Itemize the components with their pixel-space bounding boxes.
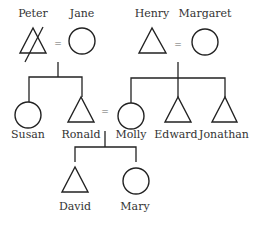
label-ronald: Ronald (61, 128, 100, 141)
label-margaret: Margaret (179, 7, 232, 20)
marriage-equals-ronald-molly: = (101, 106, 109, 116)
sibling-bar-susan-ronald (29, 77, 82, 102)
mary-circle-icon (123, 168, 149, 194)
marriage-equals-peter-jane: = (54, 38, 62, 48)
jane-circle-icon (69, 28, 95, 54)
jonathan-triangle-icon (212, 97, 237, 122)
label-henry: Henry (135, 7, 170, 20)
sibling-bar-david-mary (75, 147, 136, 162)
label-mary: Mary (120, 200, 150, 213)
susan-circle-icon (15, 102, 41, 128)
edward-triangle-icon (165, 97, 191, 122)
label-david: David (59, 200, 91, 213)
label-susan: Susan (11, 128, 45, 141)
ronald-triangle-icon (68, 97, 94, 122)
deceased-strike-line (25, 27, 43, 62)
label-molly: Molly (115, 128, 147, 141)
david-triangle-icon (62, 167, 88, 192)
marriage-equals-henry-margaret: = (174, 39, 182, 49)
henry-triangle-icon (139, 28, 166, 53)
label-edward: Edward (154, 128, 197, 141)
family-tree-diagram: Peter = Jane Henry = Margaret Susan Rona… (0, 0, 259, 225)
label-peter: Peter (18, 7, 48, 20)
peter-triangle-icon (20, 28, 46, 53)
label-jane: Jane (69, 7, 95, 20)
margaret-circle-icon (192, 29, 218, 55)
label-jonathan: Jonathan (198, 128, 249, 141)
molly-circle-icon (118, 103, 144, 129)
